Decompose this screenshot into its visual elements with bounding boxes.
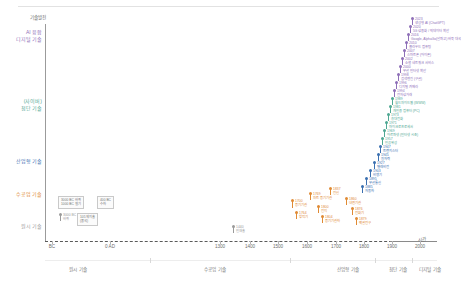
milestone-event: 생성형 AI (ChatGPT) bbox=[415, 21, 445, 25]
era-separator-3 bbox=[412, 258, 413, 263]
milestone-event: 무선 인터넷 확산 bbox=[403, 69, 426, 73]
milestone-event: 개인용 컴퓨터 (PC) bbox=[393, 109, 420, 113]
milestone-dot-icon bbox=[379, 145, 382, 148]
era-separator-2 bbox=[375, 258, 376, 263]
milestone-dot-icon bbox=[407, 33, 410, 36]
milestone-event: 전신 bbox=[333, 191, 341, 195]
milestone-dot-icon bbox=[369, 169, 372, 172]
milestone-label: 2007스마트폰 (아이폰) bbox=[407, 49, 431, 57]
x-axis-tick-label-5: 1600 bbox=[302, 244, 312, 249]
milestone-event: 트랜지스터 bbox=[383, 149, 398, 153]
milestone-label: 1969아르파넷 (인터넷 시초) bbox=[387, 129, 418, 137]
milestone-event: 아르파넷 (인터넷 시초) bbox=[387, 133, 418, 137]
milestone-event: 무선통신 bbox=[369, 181, 381, 185]
milestone-dot-icon bbox=[329, 187, 332, 190]
milestone-label: 1876전화기 bbox=[355, 207, 364, 215]
milestone-event: 인공위성 bbox=[385, 141, 397, 145]
x-axis-tick-label-3: 1400 bbox=[245, 244, 255, 249]
era-label-0: 원시 기술 bbox=[69, 266, 86, 272]
milestone-dot-icon bbox=[317, 205, 320, 208]
milestone-dot-icon bbox=[401, 57, 404, 60]
x-axis-tick-label-6: 1700 bbox=[331, 244, 341, 249]
annotation-box-0: 3000 BC 바퀴1000 BC 철기 bbox=[58, 196, 84, 209]
milestone-label: 1895무선통신 bbox=[369, 177, 381, 185]
x-axis-tick-label-9: 2000 bbox=[415, 244, 425, 249]
milestone-event: 방적기 bbox=[299, 215, 308, 219]
milestone-dot-icon bbox=[393, 89, 396, 92]
milestone-event: Google, AlphaGo(알파고) 바둑 대국 bbox=[411, 37, 461, 41]
x-axis-line-solid bbox=[390, 241, 437, 242]
milestone-event: 인쇄술 bbox=[236, 229, 245, 233]
milestone-dot-icon bbox=[345, 197, 348, 200]
milestone-event: 백열전구 bbox=[359, 221, 371, 225]
milestone-event: 디지털 카메라 bbox=[399, 85, 418, 89]
milestone-dot-icon bbox=[309, 192, 312, 195]
era-separator-1 bbox=[290, 258, 291, 263]
milestone-event: 증기기관 bbox=[295, 203, 307, 207]
milestone-event: 증기기관차 bbox=[325, 219, 340, 223]
milestone-label: 1860내연기관 bbox=[349, 197, 361, 205]
milestone-event: 비행기 bbox=[373, 173, 382, 177]
x-axis-tick-label-1: 0 AD bbox=[105, 244, 115, 249]
milestone-event: 소셜 네트워크 서비스 bbox=[405, 61, 434, 65]
milestone-dot-icon bbox=[397, 73, 400, 76]
y-axis-line bbox=[45, 24, 46, 241]
milestone-label: 1989월드와이드웹 (WWW) bbox=[395, 97, 425, 105]
x-axis-line bbox=[45, 241, 437, 242]
era-label-2: 산업형 기술 bbox=[337, 266, 358, 272]
milestone-event: 내연기관 bbox=[349, 201, 361, 205]
milestone-event: 스마트폰 (아이폰) bbox=[407, 53, 431, 57]
x-axis-tick-label-8: 1900 bbox=[387, 244, 397, 249]
milestone-event: 마이크로프로세서 bbox=[389, 125, 413, 129]
era-separator-0 bbox=[150, 258, 151, 263]
milestone-label: 1764방적기 bbox=[299, 211, 308, 219]
annotation-box-2: 105 제지술(중국) bbox=[77, 213, 98, 226]
milestone-dot-icon bbox=[291, 199, 294, 202]
milestone-label: 2023생성형 AI (ChatGPT) bbox=[415, 17, 445, 25]
milestone-label: 1700증기기관 bbox=[295, 199, 307, 207]
milestone-label: 1947트랜지스터 bbox=[383, 145, 398, 153]
x-axis-tick-label-2: 1300 bbox=[215, 244, 225, 249]
milestone-event: 월드와이드웹 (WWW) bbox=[395, 101, 425, 105]
milestone-label: 1945원자력 bbox=[381, 153, 390, 161]
annotation-box-1: 400 BC수차 bbox=[97, 196, 114, 209]
y-axis-title: 기술발전 bbox=[30, 14, 46, 20]
milestone-dot-icon bbox=[381, 137, 384, 140]
era-label-1: 수공업 기술 bbox=[204, 266, 225, 272]
milestone-label: 1879백열전구 bbox=[359, 217, 371, 225]
milestone-event: 자동차 bbox=[365, 189, 374, 193]
milestone-dot-icon bbox=[355, 217, 358, 220]
milestone-event: 전화기 bbox=[355, 211, 364, 215]
y-axis-label-4: 원시 기술 bbox=[0, 223, 42, 230]
milestone-label: 1981개인용 컴퓨터 (PC) bbox=[393, 105, 420, 113]
milestone-label: 1800전지 bbox=[321, 205, 329, 213]
x-axis-tick-label-0: BC bbox=[49, 244, 55, 249]
milestone-label: 1996디지털 카메라 bbox=[399, 81, 418, 89]
milestone-label: 1903비행기 bbox=[373, 169, 382, 177]
milestone-dot-icon bbox=[59, 213, 62, 216]
milestone-label: 1927텔레비전 bbox=[377, 161, 389, 169]
milestone-label: 20205G 상용화 / 빅데이터 확산 bbox=[413, 25, 449, 33]
milestone-event: 텔레비전 bbox=[377, 165, 389, 169]
milestone-dot-icon bbox=[351, 207, 354, 210]
top-divider bbox=[18, 6, 439, 7]
milestone-dot-icon bbox=[395, 81, 398, 84]
milestone-event: 와트 증기기관 bbox=[313, 196, 332, 200]
milestone-dot-icon bbox=[377, 153, 380, 156]
milestone-stem-icon bbox=[292, 201, 293, 208]
milestone-dot-icon bbox=[409, 25, 412, 28]
era-band-rule bbox=[45, 260, 437, 261]
y-axis-label-1: (사이버)첨단 기술 bbox=[0, 98, 42, 112]
milestone-label: 2002소셜 네트워크 서비스 bbox=[405, 57, 434, 65]
milestone-label: 1885자동차 bbox=[365, 185, 374, 193]
era-label-4: 디지털 기술 bbox=[419, 266, 440, 272]
milestone-dot-icon bbox=[385, 121, 388, 124]
milestone-dot-icon bbox=[391, 97, 394, 100]
milestone-dot-icon bbox=[387, 113, 390, 116]
milestone-label: 1837전신 bbox=[333, 187, 341, 195]
milestone-label: 1973휴대전화 bbox=[391, 113, 403, 121]
milestone-label: 2000무선 인터넷 확산 bbox=[403, 65, 426, 73]
milestone-event: 원자력 bbox=[381, 157, 390, 161]
y-axis-label-2: 산업형 기술 bbox=[0, 158, 42, 165]
